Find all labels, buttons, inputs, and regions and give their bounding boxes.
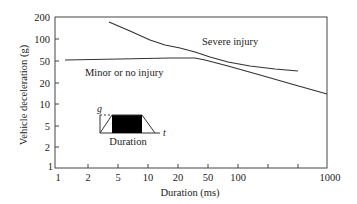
inset-t-label: t	[163, 127, 166, 138]
x-tick-label: 2	[85, 172, 90, 183]
y-tick-label: 50	[40, 56, 51, 67]
inset-duration-label: Duration	[109, 136, 147, 147]
x-tick-label: 1	[55, 172, 60, 183]
y-tick-label: 20	[40, 78, 51, 89]
plot-frame	[55, 17, 327, 168]
y-axis-title: Vehicle deceleration (g)	[18, 44, 30, 145]
y-tick-label: 10	[40, 99, 51, 110]
y-tick-label: 2	[45, 142, 50, 153]
x-tick-label: 10	[143, 172, 154, 183]
x-tick-label: 5	[115, 172, 120, 183]
x-tick-label: 50	[203, 172, 214, 183]
y-tick-label: 1	[48, 161, 53, 172]
x-tick-label: 100	[230, 172, 246, 183]
minor-injury-label: Minor or no injury	[85, 67, 164, 78]
x-tick-label: 20	[173, 172, 184, 183]
chart-root: 200 100 50 20 10 5 2 1 1 2 5 10 20 50 10…	[0, 0, 357, 204]
x-axis: 1 2 5 10 20 50 100 1000	[55, 164, 340, 183]
x-axis-title: Duration (ms)	[160, 187, 220, 199]
severe-injury-label: Severe injury	[202, 36, 259, 47]
pulse-inset: g t Duration	[97, 103, 166, 147]
y-tick-label: 5	[45, 121, 50, 132]
inset-g-label: g	[97, 103, 102, 114]
y-tick-label: 100	[34, 34, 50, 45]
x-tick-label: 1000	[320, 172, 341, 183]
y-tick-label: 200	[34, 12, 50, 23]
